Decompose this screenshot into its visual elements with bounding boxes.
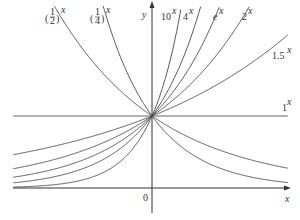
- curves: [13, 6, 287, 187]
- svg-text:(: (: [90, 13, 94, 25]
- svg-text:4: 4: [183, 11, 188, 22]
- svg-text:x: x: [247, 5, 253, 16]
- label-two-pow-x: 2 x: [242, 5, 253, 22]
- svg-text:10: 10: [161, 11, 171, 22]
- label-onehalf-pow-x: 1.5 x: [272, 44, 292, 61]
- exponential-functions-chart: x y 0 ( 1 2 ) x ( 1 4 ) x 10 x 4 x e x 2…: [0, 0, 300, 220]
- curve--1-4--x: [103, 6, 288, 182]
- svg-text:1.5: 1.5: [272, 50, 285, 61]
- label-e-pow-x: e x: [213, 5, 224, 22]
- svg-text:): ): [56, 13, 59, 25]
- curve-1.5-x: [13, 35, 287, 155]
- origin-label: 0: [143, 192, 148, 203]
- svg-text:e: e: [213, 11, 218, 22]
- label-ten-pow-x: 10 x: [161, 5, 177, 22]
- curve-10-x: [13, 10, 180, 187]
- curve-4-x: [13, 7, 200, 183]
- svg-text:x: x: [60, 4, 66, 15]
- svg-text:x: x: [188, 5, 194, 16]
- svg-text:x: x: [171, 5, 177, 16]
- svg-text:x: x: [105, 4, 111, 15]
- svg-text:2: 2: [50, 15, 55, 26]
- svg-text:x: x: [218, 5, 224, 16]
- svg-text:x: x: [286, 44, 292, 55]
- curve-2-x: [13, 7, 249, 169]
- svg-text:): ): [101, 13, 104, 25]
- svg-text:(: (: [45, 13, 49, 25]
- svg-text:2: 2: [242, 11, 247, 22]
- x-axis-arrow-icon: [284, 186, 291, 191]
- curve--1-2--x: [54, 6, 287, 168]
- label-four-pow-x: 4 x: [183, 5, 194, 22]
- svg-text:4: 4: [95, 15, 100, 26]
- x-axis-label: x: [284, 193, 290, 204]
- svg-text:x: x: [286, 96, 292, 107]
- y-axis-label: y: [141, 9, 147, 20]
- label-one-pow-x: 1 x: [282, 96, 292, 113]
- y-axis-arrow-icon: [150, 1, 155, 8]
